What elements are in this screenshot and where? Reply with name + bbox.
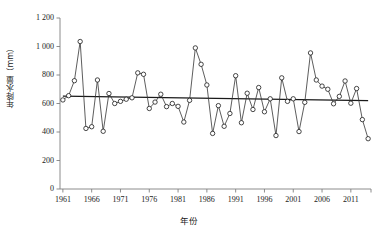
plot-area <box>0 0 378 240</box>
data-markers <box>61 39 371 141</box>
data-line <box>63 42 368 139</box>
axis-lines <box>57 18 372 193</box>
precipitation-chart: 年降水量（mm） 年份 02004006008001 0001 200 1961… <box>0 0 378 240</box>
